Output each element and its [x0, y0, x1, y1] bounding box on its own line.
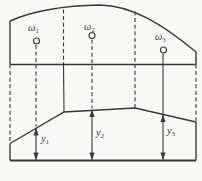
omega-3-label: ω3	[155, 32, 166, 44]
omega-3-label-sub: 3	[162, 36, 165, 43]
y2-down-arrowhead	[89, 153, 94, 161]
figure-canvas: ω1 ω2 ω3 y1 y2 y3	[0, 0, 202, 181]
y2-label-sub: 2	[101, 132, 104, 139]
y3-label-sub: 3	[172, 130, 175, 137]
y1-label: y1	[41, 134, 49, 146]
omega-1-point-circle	[34, 38, 40, 44]
y3-down-arrowhead	[160, 153, 165, 161]
y1-down-arrowhead	[33, 153, 38, 161]
omega-1-label-sub: 1	[35, 27, 38, 34]
omega-2-label-sub: 2	[91, 26, 94, 33]
panel-line-1-solid	[64, 65, 65, 113]
y3-up-arrowhead	[160, 115, 165, 123]
y3-label: y3	[167, 126, 175, 138]
y2-label: y2	[96, 128, 104, 140]
omega-2-label: ω2	[84, 22, 95, 34]
y1-label-sub: 1	[46, 138, 49, 145]
omega-3-point-circle	[161, 47, 167, 53]
omega-1-label: ω1	[28, 23, 39, 35]
